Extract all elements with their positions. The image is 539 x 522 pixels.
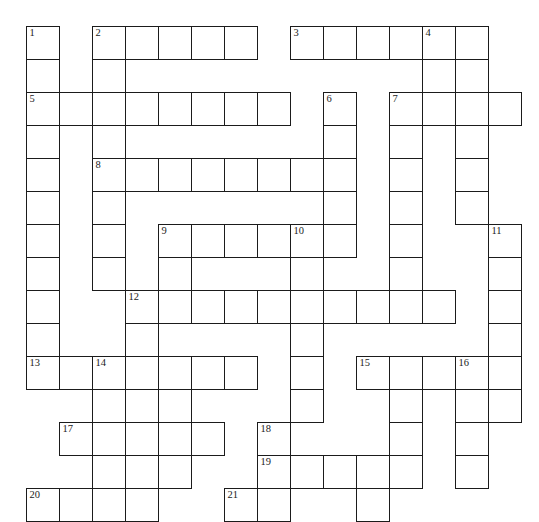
crossword-cell[interactable] xyxy=(389,422,423,456)
crossword-cell[interactable] xyxy=(224,92,258,126)
crossword-cell[interactable] xyxy=(389,290,423,324)
crossword-cell[interactable] xyxy=(92,59,126,93)
crossword-cell[interactable] xyxy=(59,488,93,522)
crossword-cell[interactable]: 4 xyxy=(422,26,456,60)
crossword-cell[interactable] xyxy=(290,158,324,192)
crossword-cell[interactable] xyxy=(257,290,291,324)
crossword-cell[interactable] xyxy=(92,422,126,456)
crossword-cell[interactable] xyxy=(191,422,225,456)
crossword-cell[interactable] xyxy=(455,389,489,423)
crossword-cell[interactable] xyxy=(158,257,192,291)
crossword-cell[interactable] xyxy=(323,290,357,324)
crossword-cell[interactable] xyxy=(224,158,258,192)
crossword-cell[interactable] xyxy=(158,26,192,60)
crossword-cell[interactable] xyxy=(92,224,126,258)
crossword-cell[interactable] xyxy=(26,257,60,291)
crossword-cell[interactable] xyxy=(488,323,522,357)
crossword-cell[interactable] xyxy=(455,92,489,126)
crossword-cell[interactable] xyxy=(455,455,489,489)
crossword-cell[interactable]: 8 xyxy=(92,158,126,192)
crossword-cell[interactable] xyxy=(455,158,489,192)
crossword-cell[interactable] xyxy=(158,158,192,192)
crossword-cell[interactable] xyxy=(125,389,159,423)
crossword-cell[interactable] xyxy=(26,224,60,258)
crossword-cell[interactable] xyxy=(389,125,423,159)
crossword-cell[interactable] xyxy=(389,224,423,258)
crossword-cell[interactable] xyxy=(422,356,456,390)
crossword-cell[interactable] xyxy=(323,158,357,192)
crossword-cell[interactable] xyxy=(356,488,390,522)
crossword-cell[interactable] xyxy=(191,290,225,324)
crossword-cell[interactable] xyxy=(158,356,192,390)
crossword-cell[interactable] xyxy=(26,158,60,192)
crossword-cell[interactable] xyxy=(26,59,60,93)
crossword-cell[interactable] xyxy=(158,290,192,324)
crossword-cell[interactable] xyxy=(323,455,357,489)
crossword-cell[interactable] xyxy=(488,389,522,423)
crossword-cell[interactable]: 5 xyxy=(26,92,60,126)
crossword-cell[interactable] xyxy=(92,92,126,126)
crossword-cell[interactable] xyxy=(389,455,423,489)
crossword-cell[interactable] xyxy=(26,323,60,357)
crossword-cell[interactable]: 1 xyxy=(26,26,60,60)
crossword-cell[interactable] xyxy=(92,488,126,522)
crossword-cell[interactable] xyxy=(26,191,60,225)
crossword-cell[interactable] xyxy=(455,191,489,225)
crossword-cell[interactable]: 17 xyxy=(59,422,93,456)
crossword-cell[interactable] xyxy=(92,389,126,423)
crossword-cell[interactable] xyxy=(158,92,192,126)
crossword-cell[interactable] xyxy=(257,488,291,522)
crossword-cell[interactable]: 20 xyxy=(26,488,60,522)
crossword-cell[interactable]: 7 xyxy=(389,92,423,126)
crossword-cell[interactable] xyxy=(125,26,159,60)
crossword-cell[interactable] xyxy=(158,389,192,423)
crossword-cell[interactable]: 18 xyxy=(257,422,291,456)
crossword-cell[interactable] xyxy=(356,455,390,489)
crossword-cell[interactable] xyxy=(290,455,324,489)
crossword-cell[interactable] xyxy=(257,92,291,126)
crossword-cell[interactable] xyxy=(125,488,159,522)
crossword-cell[interactable]: 9 xyxy=(158,224,192,258)
crossword-cell[interactable] xyxy=(389,191,423,225)
crossword-cell[interactable] xyxy=(422,59,456,93)
crossword-cell[interactable] xyxy=(125,422,159,456)
crossword-cell[interactable] xyxy=(290,356,324,390)
crossword-cell[interactable] xyxy=(59,356,93,390)
crossword-cell[interactable] xyxy=(224,290,258,324)
crossword-cell[interactable] xyxy=(290,389,324,423)
crossword-cell[interactable] xyxy=(323,224,357,258)
crossword-cell[interactable] xyxy=(26,125,60,159)
crossword-cell[interactable]: 10 xyxy=(290,224,324,258)
crossword-cell[interactable] xyxy=(455,59,489,93)
crossword-cell[interactable] xyxy=(389,356,423,390)
crossword-cell[interactable] xyxy=(488,92,522,126)
crossword-cell[interactable] xyxy=(422,92,456,126)
crossword-cell[interactable]: 16 xyxy=(455,356,489,390)
crossword-cell[interactable] xyxy=(389,158,423,192)
crossword-cell[interactable]: 13 xyxy=(26,356,60,390)
crossword-cell[interactable] xyxy=(191,26,225,60)
crossword-cell[interactable] xyxy=(389,257,423,291)
crossword-cell[interactable] xyxy=(455,26,489,60)
crossword-cell[interactable] xyxy=(125,158,159,192)
crossword-cell[interactable] xyxy=(356,290,390,324)
crossword-cell[interactable] xyxy=(125,92,159,126)
crossword-cell[interactable]: 6 xyxy=(323,92,357,126)
crossword-cell[interactable] xyxy=(389,26,423,60)
crossword-cell[interactable] xyxy=(158,455,192,489)
crossword-cell[interactable] xyxy=(356,26,390,60)
crossword-cell[interactable] xyxy=(488,356,522,390)
crossword-cell[interactable] xyxy=(92,191,126,225)
crossword-cell[interactable] xyxy=(224,356,258,390)
crossword-cell[interactable]: 15 xyxy=(356,356,390,390)
crossword-cell[interactable] xyxy=(26,290,60,324)
crossword-cell[interactable] xyxy=(125,455,159,489)
crossword-cell[interactable] xyxy=(323,125,357,159)
crossword-cell[interactable]: 3 xyxy=(290,26,324,60)
crossword-cell[interactable] xyxy=(290,323,324,357)
crossword-cell[interactable] xyxy=(455,125,489,159)
crossword-cell[interactable] xyxy=(290,290,324,324)
crossword-cell[interactable] xyxy=(191,92,225,126)
crossword-cell[interactable] xyxy=(191,356,225,390)
